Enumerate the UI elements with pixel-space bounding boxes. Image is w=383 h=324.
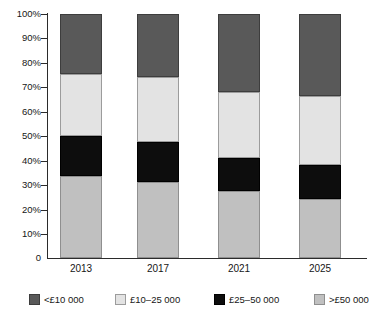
segment-2025-10-25k xyxy=(299,96,341,166)
segment-2025-25-50k xyxy=(299,165,341,199)
bar-2013 xyxy=(60,14,102,258)
bar-2025 xyxy=(299,14,341,258)
x-tick-label-2021: 2021 xyxy=(209,263,269,275)
segment-2013-10-25k xyxy=(60,74,102,136)
segment-2025-over-50k xyxy=(299,199,341,258)
legend-item-25-50k: £25–50 000 xyxy=(214,292,279,306)
legend-label-under-10k: <£10 000 xyxy=(44,294,84,305)
legend-swatch-light-gray-icon xyxy=(115,294,126,305)
legend-label-25-50k: £25–50 000 xyxy=(229,294,279,305)
y-tick-label-80: 80% xyxy=(3,58,41,68)
x-axis-line xyxy=(47,258,367,259)
legend-label-over-50k: >£50 000 xyxy=(329,294,369,305)
legend-label-10-25k: £10–25 000 xyxy=(130,294,180,305)
x-tick-label-2025: 2025 xyxy=(290,263,350,275)
x-tick-label-2017: 2017 xyxy=(128,263,188,275)
plot-area xyxy=(47,14,365,258)
segment-2017-25-50k xyxy=(137,142,179,182)
bar-2021 xyxy=(218,14,260,258)
y-tick-label-100: 100% xyxy=(3,9,41,19)
y-tick-label-0: 0 xyxy=(3,253,41,263)
y-tick-label-50: 50% xyxy=(3,131,41,141)
legend-item-under-10k: <£10 000 xyxy=(29,292,84,306)
stacked-bar-chart: 100% 90% 80% 70% 60% 50% 40% 30% xyxy=(0,0,383,324)
segment-2021-25-50k xyxy=(218,158,260,191)
y-tick-label-30: 30% xyxy=(3,180,41,190)
segment-2017-under-10k xyxy=(137,14,179,77)
segment-2013-25-50k xyxy=(60,136,102,176)
legend-item-10-25k: £10–25 000 xyxy=(115,292,180,306)
segment-2017-10-25k xyxy=(137,77,179,142)
bar-2017 xyxy=(137,14,179,258)
legend-item-over-50k: >£50 000 xyxy=(314,292,369,306)
y-tick-label-20: 20% xyxy=(3,205,41,215)
segment-2017-over-50k xyxy=(137,182,179,258)
legend-swatch-black-icon xyxy=(214,294,225,305)
y-tick-label-70: 70% xyxy=(3,82,41,92)
segment-2025-under-10k xyxy=(299,14,341,96)
y-tick-label-10: 10% xyxy=(3,229,41,239)
legend-swatch-dark-gray-icon xyxy=(29,294,40,305)
segment-2021-under-10k xyxy=(218,14,260,92)
segment-2013-over-50k xyxy=(60,176,102,258)
segment-2021-over-50k xyxy=(218,191,260,258)
y-tick-label-40: 40% xyxy=(3,156,41,166)
segment-2021-10-25k xyxy=(218,92,260,158)
x-tick-label-2013: 2013 xyxy=(51,263,111,275)
legend-swatch-medium-gray-icon xyxy=(314,294,325,305)
chart-legend: <£10 000 £10–25 000 £25–50 000 >£50 000 xyxy=(0,292,383,312)
y-tick-label-60: 60% xyxy=(3,107,41,117)
segment-2013-under-10k xyxy=(60,14,102,74)
y-tick-label-90: 90% xyxy=(3,33,41,43)
